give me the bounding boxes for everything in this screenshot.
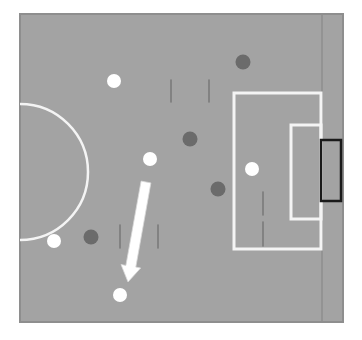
field-layer (20, 14, 343, 322)
player-dark-d3 (211, 182, 226, 197)
player-white-w1 (107, 74, 121, 88)
player-white-w3 (47, 234, 61, 248)
player-white-w4 (113, 288, 127, 302)
pitch-surface (20, 14, 343, 322)
tactics-pitch (0, 0, 362, 340)
player-dark-d2 (183, 132, 198, 147)
player-dark-d4 (84, 230, 99, 245)
player-white-w2 (143, 152, 157, 166)
player-dark-d1 (236, 55, 251, 70)
player-white-w5 (245, 162, 259, 176)
